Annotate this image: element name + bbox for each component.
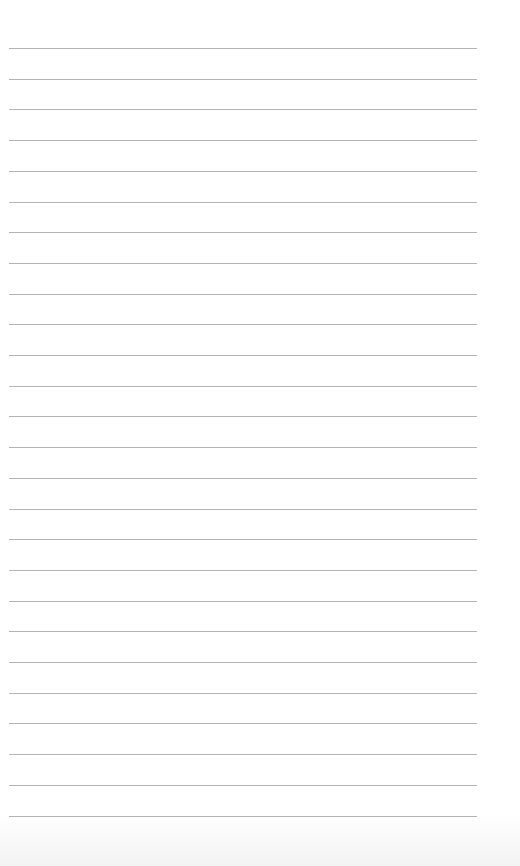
ruled-line bbox=[9, 171, 477, 172]
ruled-line bbox=[9, 601, 477, 602]
ruled-line bbox=[9, 386, 477, 387]
lined-paper-page bbox=[0, 0, 520, 866]
ruled-line bbox=[9, 693, 477, 694]
ruled-line bbox=[9, 324, 477, 325]
ruled-line bbox=[9, 539, 477, 540]
ruled-line bbox=[9, 570, 477, 571]
ruled-line bbox=[9, 232, 477, 233]
ruled-line bbox=[9, 140, 477, 141]
ruled-line bbox=[9, 79, 477, 80]
ruled-line bbox=[9, 816, 477, 817]
ruled-line bbox=[9, 416, 477, 417]
ruled-line bbox=[9, 509, 477, 510]
ruled-line bbox=[9, 263, 477, 264]
ruled-line bbox=[9, 355, 477, 356]
ruled-line bbox=[9, 723, 477, 724]
ruled-line bbox=[9, 447, 477, 448]
ruled-line bbox=[9, 662, 477, 663]
ruled-line bbox=[9, 631, 477, 632]
ruled-line bbox=[9, 294, 477, 295]
ruled-line bbox=[9, 785, 477, 786]
ruled-line bbox=[9, 48, 477, 49]
ruled-line bbox=[9, 478, 477, 479]
ruled-line bbox=[9, 202, 477, 203]
ruled-line bbox=[9, 754, 477, 755]
ruled-line bbox=[9, 109, 477, 110]
